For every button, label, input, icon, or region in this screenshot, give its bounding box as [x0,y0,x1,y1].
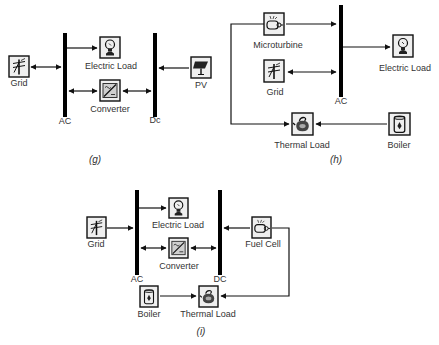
fuel-cell-label: Fuel Cell [245,239,281,249]
boiler-component[interactable] [140,286,158,307]
panel-h: Microturbine Grid Electric Load Thermal … [231,5,431,165]
electric-load-label: Electric Load [152,220,204,230]
converter-component[interactable] [100,80,120,101]
dc-bus-label: Dc [150,115,161,125]
boiler-component[interactable] [389,113,410,135]
boiler-label: Boiler [387,140,410,150]
ac-bus [135,190,139,275]
electric-load-component[interactable] [169,198,188,218]
dc-bus-label: DC [214,274,227,284]
panel-i-caption: (i) [197,326,206,337]
ac-bus-label: AC [335,96,348,106]
panel-i: Grid Electric Load Converter Fuel Cell [87,190,289,337]
ac-bus [339,5,343,97]
ac-bus-label: AC [59,116,72,126]
grid-component[interactable] [9,56,29,77]
grid-label: Grid [87,239,104,249]
ac-bus [63,33,67,117]
grid-component[interactable] [87,217,106,238]
converter-label: Converter [159,261,199,271]
boiler-label: Boiler [137,309,160,319]
electric-load-label: Electric Load [379,63,431,73]
grid-label: Grid [10,78,27,88]
converter-component[interactable] [169,238,188,258]
thermal-load-component[interactable] [292,113,313,135]
ac-bus-label: AC [131,274,144,284]
microturbine-component[interactable] [264,13,284,35]
thermal-load-component[interactable] [199,286,218,307]
pv-label: PV [195,80,207,90]
thermal-load-label: Thermal Load [180,309,236,319]
converter-label: Converter [90,104,130,114]
electric-load-label: Electric Load [85,61,137,71]
system-diagrams: Grid Electric Load Converter PV AC Dc (g… [0,0,439,345]
electric-load-component[interactable] [393,35,413,57]
pv-component[interactable] [191,57,211,78]
panel-h-caption: (h) [330,154,342,165]
dc-bus [153,33,157,117]
converter-icon [172,241,185,254]
electric-load-component[interactable] [100,37,120,58]
dc-bus [218,190,222,275]
panel-g: Grid Electric Load Converter PV AC Dc (g… [9,33,211,165]
panel-g-caption: (g) [89,154,101,165]
thermal-load-label: Thermal Load [274,140,330,150]
fuel-cell-component[interactable] [252,217,271,238]
converter-icon [103,84,117,98]
grid-component[interactable] [264,60,284,82]
microturbine-label: Microturbine [253,40,303,50]
grid-label: Grid [266,87,283,97]
